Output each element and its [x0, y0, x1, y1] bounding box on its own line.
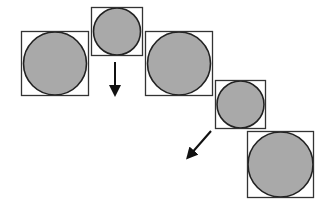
circle-shape	[24, 32, 87, 95]
circle-packing-diagram	[0, 0, 326, 208]
cell-large	[248, 132, 314, 198]
circle-shape	[248, 132, 313, 197]
cell-large	[22, 32, 89, 96]
cell-large	[146, 32, 213, 96]
arrow-down-left-icon	[190, 131, 211, 155]
cells-layer	[22, 8, 314, 198]
circle-shape	[148, 32, 211, 95]
circle-shape	[217, 81, 264, 128]
cell-small	[92, 8, 143, 56]
circle-shape	[94, 8, 141, 55]
cell-small	[216, 81, 266, 129]
